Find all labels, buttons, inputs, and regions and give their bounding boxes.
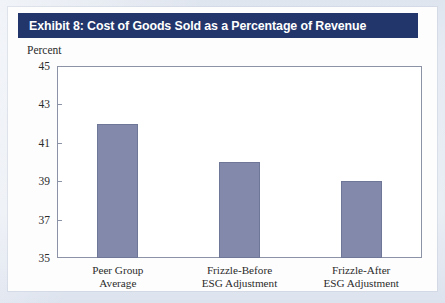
y-axis-tick-mark bbox=[57, 181, 62, 182]
y-axis-tick-label: 39 bbox=[30, 175, 50, 187]
bar bbox=[97, 124, 138, 258]
x-axis-category-label-line: ESG Adjustment bbox=[175, 277, 305, 290]
x-axis-category-label: Frizzle-BeforeESG Adjustment bbox=[175, 264, 305, 289]
y-axis-tick-label: 43 bbox=[30, 98, 50, 110]
bar bbox=[341, 181, 382, 258]
x-axis-category-label: Frizzle-AfterESG Adjustment bbox=[296, 264, 426, 289]
bar bbox=[219, 162, 260, 258]
y-axis-tick-mark bbox=[57, 220, 62, 221]
y-axis-tick-label: 45 bbox=[30, 60, 50, 72]
y-axis-tick-mark bbox=[57, 143, 62, 144]
x-axis-category-label-line: Average bbox=[53, 277, 183, 290]
x-axis-category-label-line: Frizzle-After bbox=[296, 264, 426, 277]
y-axis-tick-labels: 454341393735 bbox=[28, 0, 50, 303]
bar-chart: Percent 454341393735 Peer GroupAverageFr… bbox=[0, 0, 445, 303]
y-axis-tick-label: 41 bbox=[30, 137, 50, 149]
x-axis-category-label: Peer GroupAverage bbox=[53, 264, 183, 289]
x-axis-category-label-line: Peer Group bbox=[53, 264, 183, 277]
x-axis-category-label-line: ESG Adjustment bbox=[296, 277, 426, 290]
x-axis-category-label-line: Frizzle-Before bbox=[175, 264, 305, 277]
y-axis-tick-label: 37 bbox=[30, 214, 50, 226]
y-axis-tick-mark bbox=[57, 104, 62, 105]
y-axis-tick-label: 35 bbox=[30, 252, 50, 264]
